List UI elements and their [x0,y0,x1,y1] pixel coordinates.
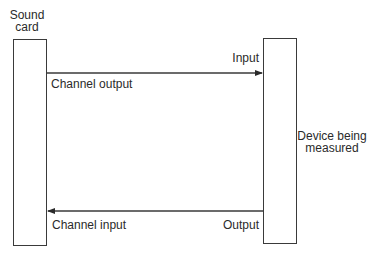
channel-output-label: Channel output [51,78,132,90]
channel-input-label: Channel input [52,219,126,231]
output-label: Output [200,219,259,231]
input-label: Input [200,52,259,64]
